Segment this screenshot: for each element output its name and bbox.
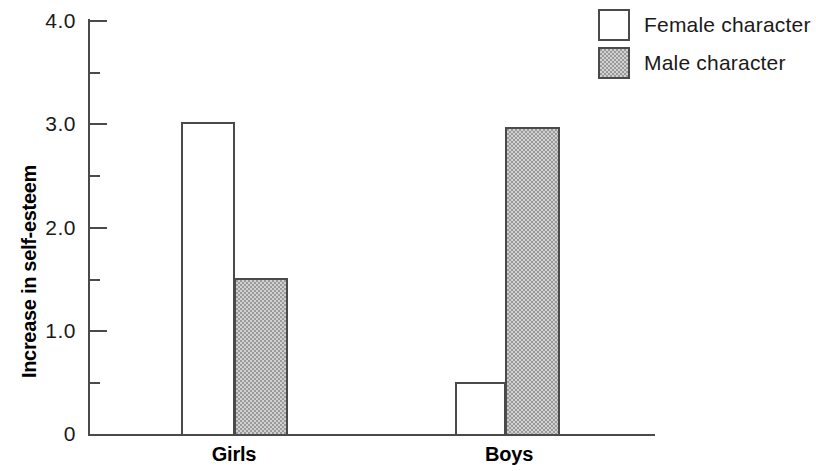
legend: Female character Male character [598,6,811,82]
y-tick-major-2 [90,227,107,229]
bar-girls-female-character [181,122,235,436]
legend-label-female-character: Female character [644,13,811,37]
y-tick-minor-35 [90,72,100,74]
bar-girls-male-character [234,278,288,436]
legend-label-male-character: Male character [644,51,786,75]
y-tick-label-1: 1.0 [45,319,76,343]
y-tick-minor-25 [90,175,100,177]
y-tick-label-0: 0 [64,422,76,446]
bar-boys-male-character [505,127,560,436]
y-tick-minor-15 [90,279,100,281]
legend-swatch-female-character [598,9,630,41]
y-tick-label-4: 4.0 [45,9,76,33]
y-tick-label-2: 2.0 [45,216,76,240]
bar-chart: 4.0 3.0 2.0 1.0 0 Increase in self-estee… [0,0,816,471]
legend-item-female-character: Female character [598,6,811,44]
x-axis-label-girls: Girls [212,443,257,466]
legend-item-male-character: Male character [598,44,811,82]
y-tick-minor-05 [90,382,100,384]
y-axis-title: Increase in self-esteem [18,97,41,447]
bar-boys-female-character [455,382,506,436]
y-tick-label-3: 3.0 [45,112,76,136]
y-tick-major-3 [90,123,107,125]
x-axis-label-boys: Boys [485,443,533,466]
x-axis-line [88,434,655,436]
y-tick-major-1 [90,330,107,332]
y-tick-major-4 [90,20,107,22]
legend-swatch-male-character [598,47,630,79]
